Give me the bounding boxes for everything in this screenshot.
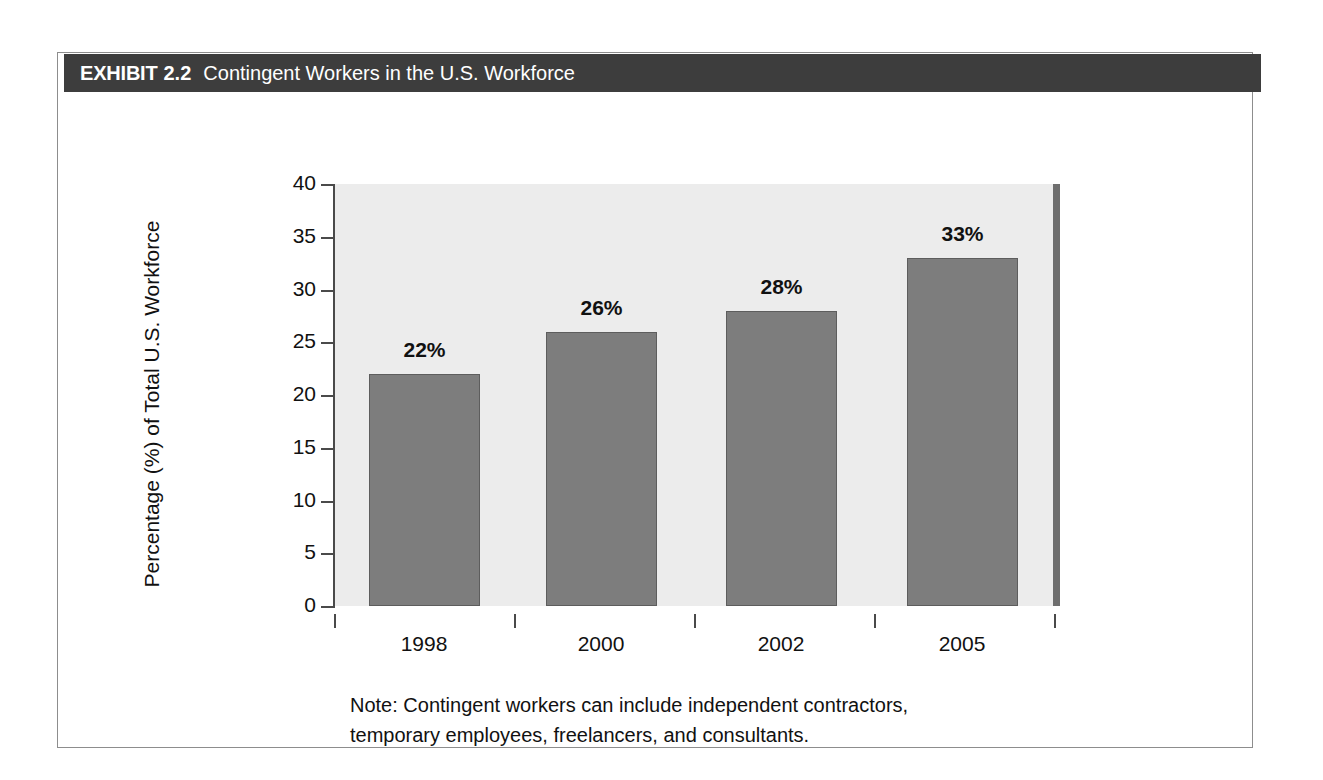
x-tick-1 — [514, 614, 516, 628]
y-tick-label-20: 20 — [254, 382, 316, 406]
y-tick-25 — [321, 342, 334, 344]
y-tick-10 — [321, 501, 334, 503]
y-tick-15 — [321, 448, 334, 450]
y-tick-label-35: 35 — [254, 224, 316, 248]
bar-value-1998: 22% — [345, 338, 505, 362]
y-tick-label-5: 5 — [254, 540, 316, 564]
bar-2005[interactable] — [907, 258, 1018, 606]
bar-chart: Percentage (%) of Total U.S. Workforce 4… — [58, 92, 1252, 747]
bar-1998[interactable] — [369, 374, 480, 606]
y-tick-20 — [321, 395, 334, 397]
x-tick-3 — [874, 614, 876, 628]
exhibit-header: EXHIBIT 2.2 Contingent Workers in the U.… — [64, 54, 1261, 92]
chart-note: Note: Contingent workers can include ind… — [350, 690, 1110, 750]
exhibit-label: EXHIBIT — [80, 62, 158, 85]
bar-value-2005: 33% — [883, 222, 1043, 246]
y-axis-title: Percentage (%) of Total U.S. Workforce — [140, 184, 164, 624]
chart-note-line-1: Note: Contingent workers can include ind… — [350, 690, 1110, 720]
x-label-2002: 2002 — [701, 632, 861, 656]
y-tick-label-30: 30 — [254, 277, 316, 301]
y-tick-label-25: 25 — [254, 329, 316, 353]
chart-note-line-2: temporary employees, freelancers, and co… — [350, 720, 1110, 750]
x-label-2000: 2000 — [521, 632, 681, 656]
y-tick-label-40: 40 — [254, 171, 316, 195]
x-tick-0 — [334, 614, 336, 628]
y-tick-0 — [321, 606, 334, 608]
bar-value-2002: 28% — [702, 275, 862, 299]
y-tick-30 — [321, 290, 334, 292]
y-tick-label-15: 15 — [254, 435, 316, 459]
bar-2000[interactable] — [546, 332, 657, 606]
x-tick-2 — [694, 614, 696, 628]
y-tick-5 — [321, 553, 334, 555]
x-label-2005: 2005 — [882, 632, 1042, 656]
exhibit-title: Contingent Workers in the U.S. Workforce — [203, 62, 575, 85]
exhibit-frame: EXHIBIT 2.2 Contingent Workers in the U.… — [57, 52, 1253, 748]
x-label-1998: 1998 — [344, 632, 504, 656]
y-tick-label-0: 0 — [254, 593, 316, 617]
bar-value-2000: 26% — [522, 296, 682, 320]
y-tick-40 — [321, 184, 334, 186]
y-tick-35 — [321, 237, 334, 239]
y-tick-label-10: 10 — [254, 488, 316, 512]
bar-2002[interactable] — [726, 311, 837, 606]
x-tick-4 — [1054, 614, 1056, 628]
exhibit-number: 2.2 — [164, 62, 192, 85]
